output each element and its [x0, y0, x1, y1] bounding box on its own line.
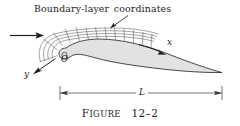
x-axis-label: x [167, 38, 172, 47]
caption-number: 12–2 [131, 107, 158, 119]
grid-normal-line [86, 28, 89, 40]
caption-word: IGURE [89, 109, 120, 119]
figure-caption: FIGURE 12–2 [0, 108, 240, 119]
annotation-pointer [110, 16, 128, 29]
grid-normal-line [115, 28, 116, 40]
grid-normal-line [44, 39, 58, 50]
y-axis-arrow [33, 59, 56, 75]
y-axis-arrow-shaft [39, 59, 56, 71]
airfoil-shape [59, 39, 222, 73]
boundary-layer-annotation-label: Boundary-layer coordinates [34, 4, 171, 13]
airfoil-body [59, 39, 222, 73]
figure-container: Boundary-layer coordinates x y O L FIGUR… [0, 0, 240, 126]
y-axis-label: y [24, 70, 29, 79]
origin-label: O [61, 55, 68, 64]
grid-normal-line [143, 32, 144, 45]
annotation-pointer-shaft [114, 16, 128, 26]
flow-arrow [10, 32, 44, 39]
chord-length-label: L [136, 88, 148, 97]
grid-normal-line [124, 29, 125, 41]
